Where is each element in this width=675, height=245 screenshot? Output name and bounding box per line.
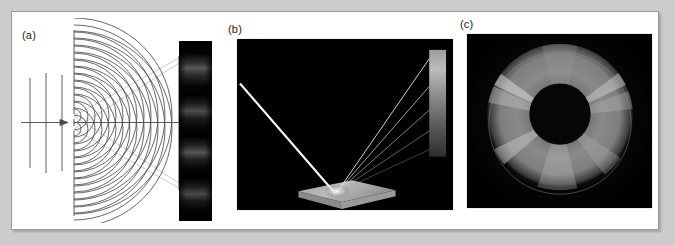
incident-arrow-icon [21,120,68,126]
figure-root: (a) [0,0,675,245]
plane-wavefronts [30,73,62,173]
panel-b-label: (b) [228,24,242,35]
figure-card: (a) [11,11,659,230]
beam-spot-glow [324,184,350,198]
panel-c-annular-diffraction-pattern: (c) [458,15,658,223]
panel-b-grating-diffraction-photograph: (b) [226,18,456,223]
panel-c-label: (c) [460,19,473,30]
vignette-overlay [467,34,652,208]
fringe-side-shading [179,41,212,221]
nodal-line [74,129,179,188]
grating-diffraction-drawing [237,39,453,210]
annular-diffraction-image [466,33,653,209]
detector-card [429,50,446,157]
interference-intensity-strip [179,41,212,221]
annular-diffraction-drawing [467,34,652,208]
grating-diffraction-image [236,38,454,211]
nodal-line [74,58,179,116]
